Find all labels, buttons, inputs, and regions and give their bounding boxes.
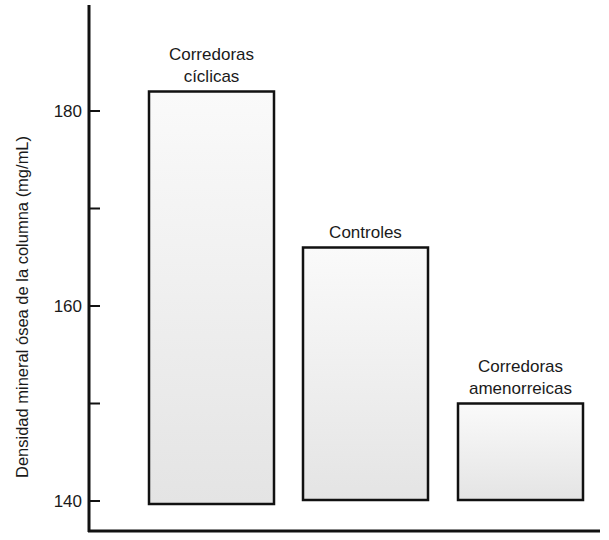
bar-category-label: Corredoras	[478, 357, 563, 376]
bar	[458, 404, 583, 501]
bar-category-label: cíclicas	[184, 67, 240, 86]
bar-chart: 140160180 CorredorascíclicasControlesCor…	[0, 0, 609, 540]
bar-category-label: Corredoras	[169, 45, 254, 64]
bars: CorredorascíclicasControlesCorredorasame…	[149, 45, 583, 505]
y-axis-title: Densidad mineral ósea de la columna (mg/…	[13, 136, 31, 478]
y-tick-label: 140	[54, 492, 82, 511]
y-ticks: 140160180	[54, 102, 100, 511]
bar-category-label: amenorreicas	[469, 379, 572, 398]
bar	[303, 248, 428, 501]
y-tick-label: 160	[54, 297, 82, 316]
y-tick-label: 180	[54, 102, 82, 121]
bar	[149, 92, 274, 505]
bar-category-label: Controles	[329, 223, 402, 242]
